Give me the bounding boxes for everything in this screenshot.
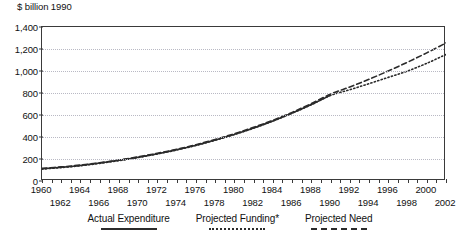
x-tick-mark — [225, 179, 226, 183]
x-tick-mark — [100, 179, 101, 183]
x-tick-label: 2002 — [435, 197, 456, 208]
x-tick-label: 1970 — [127, 197, 148, 208]
legend-label: Projected Funding* — [196, 213, 279, 224]
x-tick-mark — [215, 179, 216, 183]
x-tick-label: 1964 — [69, 184, 90, 195]
x-tick-mark — [369, 179, 370, 183]
data-curves — [42, 27, 446, 181]
y-tick-label: 0 — [33, 176, 38, 187]
chart-legend: Actual ExpenditureProjected Funding*Proj… — [0, 213, 460, 231]
x-tick-mark — [417, 179, 418, 183]
x-tick-mark — [311, 179, 312, 183]
legend-label: Projected Need — [305, 213, 373, 224]
x-tick-mark — [263, 179, 264, 183]
x-tick-label: 1996 — [377, 184, 398, 195]
x-tick-label: 1974 — [165, 197, 186, 208]
series-line — [42, 55, 446, 170]
x-tick-label: 1978 — [204, 197, 225, 208]
x-tick-mark — [119, 179, 120, 183]
y-tick-mark — [39, 93, 43, 94]
x-tick-mark — [42, 179, 43, 183]
plot-area: 02004006008001,0001,2001,400 — [41, 26, 445, 180]
x-tick-label: 1980 — [223, 184, 244, 195]
x-tick-mark — [71, 179, 72, 183]
legend-line-swatch — [101, 226, 157, 231]
x-tick-mark — [196, 179, 197, 183]
legend-label: Actual Expenditure — [88, 213, 170, 224]
x-tick-label: 1984 — [261, 184, 282, 195]
legend-item[interactable]: Projected Need — [305, 213, 373, 231]
x-tick-mark — [427, 179, 428, 183]
series-line — [42, 95, 331, 168]
chart-figure: y $ billion 1990 02004006008001,0001,200… — [0, 0, 460, 238]
x-tick-label: 1986 — [281, 197, 302, 208]
x-tick-mark — [436, 179, 437, 183]
x-tick-label: 1966 — [88, 197, 109, 208]
x-tick-label: 1992 — [338, 184, 359, 195]
x-tick-mark — [398, 179, 399, 183]
x-tick-label: 1962 — [50, 197, 71, 208]
y-tick-label: 800 — [22, 88, 38, 99]
x-tick-mark — [157, 179, 158, 183]
x-tick-label: 2000 — [415, 184, 436, 195]
x-tick-mark — [379, 179, 380, 183]
x-tick-mark — [244, 179, 245, 183]
series-line — [42, 43, 446, 168]
y-tick-mark — [39, 49, 43, 50]
legend-line-swatch — [209, 226, 265, 231]
x-tick-mark — [206, 179, 207, 183]
x-tick-label: 1972 — [146, 184, 167, 195]
x-tick-mark — [186, 179, 187, 183]
x-tick-label: 1982 — [242, 197, 263, 208]
y-tick-label: 1,000 — [15, 66, 38, 77]
x-tick-mark — [331, 179, 332, 183]
x-tick-mark — [446, 179, 447, 183]
x-tick-mark — [340, 179, 341, 183]
x-tick-mark — [321, 179, 322, 183]
x-tick-mark — [350, 179, 351, 183]
x-tick-mark — [80, 179, 81, 183]
x-tick-mark — [61, 179, 62, 183]
y-tick-label: 200 — [22, 154, 38, 165]
y-tick-label: 1,400 — [15, 22, 38, 33]
y-tick-mark — [39, 137, 43, 138]
x-tick-label: 1988 — [300, 184, 321, 195]
legend-item[interactable]: Actual Expenditure — [88, 213, 170, 231]
y-tick-mark — [39, 159, 43, 160]
x-tick-mark — [109, 179, 110, 183]
x-tick-mark — [408, 179, 409, 183]
x-tick-mark — [359, 179, 360, 183]
x-tick-mark — [234, 179, 235, 183]
x-tick-mark — [273, 179, 274, 183]
x-tick-mark — [167, 179, 168, 183]
x-tick-mark — [292, 179, 293, 183]
x-tick-mark — [129, 179, 130, 183]
x-tick-label: 1976 — [185, 184, 206, 195]
x-tick-mark — [388, 179, 389, 183]
x-tick-label: 1990 — [319, 197, 340, 208]
y-axis-unit-label: $ billion 1990 — [17, 1, 72, 12]
y-tick-mark — [39, 115, 43, 116]
y-tick-mark — [39, 71, 43, 72]
x-tick-mark — [254, 179, 255, 183]
x-tick-mark — [138, 179, 139, 183]
x-tick-label: 1994 — [358, 197, 379, 208]
y-tick-mark — [39, 27, 43, 28]
x-tick-mark — [52, 179, 53, 183]
x-tick-mark — [282, 179, 283, 183]
x-tick-mark — [177, 179, 178, 183]
y-tick-label: 400 — [22, 132, 38, 143]
legend-line-swatch — [311, 226, 367, 231]
x-tick-label: 1968 — [108, 184, 129, 195]
y-tick-label: 600 — [22, 110, 38, 121]
x-tick-label: 1998 — [396, 197, 417, 208]
x-tick-mark — [90, 179, 91, 183]
x-tick-mark — [148, 179, 149, 183]
legend-item[interactable]: Projected Funding* — [196, 213, 279, 231]
y-tick-label: 1,200 — [15, 44, 38, 55]
x-tick-mark — [302, 179, 303, 183]
